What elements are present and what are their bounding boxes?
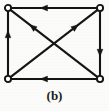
edge-top-right-to-bottom-right-arrowhead	[97, 49, 103, 56]
edge-top-right-to-top-left-arrowhead	[40, 5, 47, 11]
node-bottom-left	[5, 76, 11, 82]
node-top-right	[97, 5, 103, 11]
figure-container: (b)	[0, 0, 109, 111]
node-bottom-right	[97, 76, 103, 82]
edge-layer	[8, 8, 100, 79]
edge-bottom-right-to-bottom-left-arrowhead	[40, 76, 47, 82]
edge-bottom-left-to-top-left-arrowhead	[5, 31, 11, 38]
node-top-left	[5, 5, 11, 11]
directed-graph-diagram	[0, 0, 109, 90]
figure-caption: (b)	[0, 88, 109, 104]
